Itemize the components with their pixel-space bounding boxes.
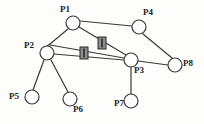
graph-node-p2[interactable] xyxy=(40,46,54,60)
graph-diagram: P1P2P3P4P5P6P7P8 xyxy=(0,0,204,124)
graph-edge-p2-p6 xyxy=(51,60,68,92)
node-label-p6: P6 xyxy=(73,105,83,114)
node-label-p7: P7 xyxy=(114,99,124,108)
edge-marker-m1[interactable] xyxy=(98,37,106,49)
graph-canvas xyxy=(0,0,204,124)
node-label-p1: P1 xyxy=(60,5,70,14)
nodes-layer xyxy=(25,16,182,108)
graph-node-p1[interactable] xyxy=(66,16,80,30)
graph-edge-p2-p5 xyxy=(33,60,44,90)
graph-node-p8[interactable] xyxy=(168,58,182,72)
node-label-p2: P2 xyxy=(24,41,34,50)
graph-node-p7[interactable] xyxy=(124,94,138,108)
edges-layer xyxy=(33,21,172,94)
graph-node-p4[interactable] xyxy=(132,20,146,34)
graph-edge-p4-p8 xyxy=(143,34,172,58)
edge-marker-m2[interactable] xyxy=(80,47,88,59)
graph-edge-p1-p4 xyxy=(80,21,132,26)
node-label-p4: P4 xyxy=(143,8,153,17)
edge-markers-layer xyxy=(80,37,106,59)
node-label-p5: P5 xyxy=(9,92,19,101)
graph-edge-p1-j1 xyxy=(50,29,68,44)
node-label-p8: P8 xyxy=(183,59,193,68)
node-label-p3: P3 xyxy=(134,66,144,75)
graph-node-p5[interactable] xyxy=(25,90,39,104)
graph-edge-p2-p3 xyxy=(54,54,124,60)
